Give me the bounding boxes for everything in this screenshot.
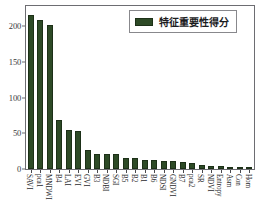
feature-importance-bar-chart: 050100150200 SAVIpca1MNDWIB4LAIEVIGVIB3N… [0, 0, 269, 219]
x-axis-tick-mark [69, 170, 70, 173]
y-axis-tick-label: 50 [13, 128, 21, 138]
bar [180, 162, 186, 169]
bar [75, 131, 81, 169]
legend-label: 特征重要性得分 [159, 14, 229, 29]
legend: 特征重要性得分 [129, 10, 237, 33]
x-axis-tick-label: EVI [73, 174, 81, 186]
bar [47, 25, 53, 169]
bar [151, 160, 157, 169]
x-axis-tick-label: B3 [92, 174, 100, 182]
x-axis-tick-mark [126, 170, 127, 173]
bar [56, 120, 62, 169]
bar [189, 163, 195, 169]
bar [132, 158, 138, 169]
x-axis-tick-label: Hom [244, 174, 252, 188]
x-axis-tick-label: GNDVI [168, 174, 176, 197]
x-axis-tick-label: NDVI [206, 174, 214, 192]
x-axis-tick-label: SAVI [25, 174, 33, 189]
x-axis-tick-label: SGI [111, 174, 119, 185]
x-axis-tick-label: GVI [82, 174, 90, 186]
x-axis-tick-mark [116, 170, 117, 173]
bar [199, 165, 205, 169]
x-axis-tick-mark [97, 170, 98, 173]
x-axis-tick-label: pca1 [35, 174, 43, 187]
x-axis-tick-label: B4 [54, 174, 62, 182]
x-axis-tick-label: B1 [139, 174, 147, 182]
x-axis-tick-label: B6 [149, 174, 157, 182]
x-axis: SAVIpca1MNDWIB4LAIEVIGVIB3NDBISGIB5B2B1B… [26, 170, 254, 219]
bar [142, 160, 148, 169]
y-axis: 050100150200 [0, 0, 25, 175]
x-axis-tick-mark [202, 170, 203, 173]
bar [66, 130, 72, 169]
x-axis-tick-mark [107, 170, 108, 173]
x-axis-tick-label: B5 [120, 174, 128, 182]
bar [246, 167, 252, 169]
bar [227, 167, 233, 169]
x-axis-tick-mark [192, 170, 193, 173]
x-axis-tick-label: Asm [225, 174, 233, 187]
bar [94, 154, 100, 169]
x-axis-tick-mark [173, 170, 174, 173]
x-axis-tick-label: LAI [63, 174, 71, 186]
bar [161, 161, 167, 169]
x-axis-tick-label: Entropy [215, 174, 223, 196]
bar [218, 166, 224, 169]
x-axis-tick-label: Con [234, 174, 242, 186]
x-axis-tick-mark [221, 170, 222, 173]
x-axis-tick-mark [59, 170, 60, 173]
bar [85, 150, 91, 169]
bar [170, 161, 176, 169]
x-axis-tick-mark [145, 170, 146, 173]
bar [113, 154, 119, 169]
x-axis-tick-mark [230, 170, 231, 173]
x-axis-tick-mark [154, 170, 155, 173]
legend-swatch-icon [135, 18, 153, 26]
x-axis-tick-label: MNDWI [44, 174, 52, 199]
x-axis-tick-mark [50, 170, 51, 173]
y-axis-tick-label: 150 [9, 57, 21, 67]
bar [104, 154, 110, 169]
x-axis-tick-mark [40, 170, 41, 173]
x-axis-tick-mark [88, 170, 89, 173]
x-axis-tick-mark [211, 170, 212, 173]
x-axis-tick-mark [135, 170, 136, 173]
bar [123, 158, 129, 169]
x-axis-tick-mark [240, 170, 241, 173]
x-axis-tick-mark [249, 170, 250, 173]
x-axis-tick-label: pca2 [187, 174, 195, 187]
x-axis-tick-mark [78, 170, 79, 173]
x-axis-tick-label: SR [196, 174, 204, 183]
bar [28, 15, 34, 169]
y-axis-tick-label: 200 [9, 21, 21, 31]
x-axis-tick-mark [183, 170, 184, 173]
x-axis-tick-label: NDBI [101, 174, 109, 191]
x-axis-tick-label: NDSI [158, 174, 166, 190]
x-axis-tick-mark [164, 170, 165, 173]
bar [37, 20, 43, 169]
y-axis-tick-label: 0 [17, 164, 21, 174]
x-axis-tick-label: B7 [177, 174, 185, 182]
y-axis-tick-label: 100 [9, 93, 21, 103]
bar [208, 166, 214, 169]
bar [237, 167, 243, 169]
x-axis-tick-mark [31, 170, 32, 173]
x-axis-tick-label: B2 [130, 174, 138, 182]
